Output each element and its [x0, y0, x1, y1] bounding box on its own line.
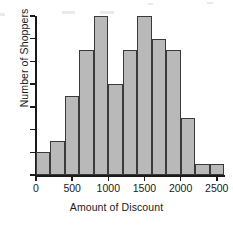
scan-artifact: [62, 11, 75, 14]
x-tick-label: 2500: [194, 183, 233, 194]
histogram-bar: [108, 84, 122, 175]
x-tick-mark: [180, 176, 182, 181]
y-tick-mark: [30, 174, 35, 176]
x-tick-mark: [108, 176, 110, 181]
y-tick-mark: [30, 38, 35, 40]
x-tick-mark: [216, 176, 218, 181]
histogram-figure: Number of Shoppers 02468101214 050010001…: [0, 0, 233, 225]
y-tick-mark: [30, 83, 35, 85]
histogram-bar: [166, 50, 180, 175]
x-tick-mark: [71, 176, 73, 181]
y-tick-mark: [30, 106, 35, 108]
x-axis-line: [35, 175, 225, 177]
histogram-bar: [65, 96, 79, 176]
histogram-bar: [79, 50, 93, 175]
histogram-bar: [195, 164, 209, 175]
y-tick-mark: [30, 152, 35, 154]
histogram-bar: [94, 16, 108, 175]
histogram-bar: [123, 50, 137, 175]
x-tick-mark: [144, 176, 146, 181]
y-tick-mark: [30, 129, 35, 131]
y-axis-title: Number of Shoppers: [18, 0, 30, 130]
scan-artifact: [148, 3, 153, 5]
scan-artifact: [0, 13, 5, 16]
y-tick-mark: [30, 15, 35, 17]
x-axis-title: Amount of Discount: [0, 201, 233, 213]
histogram-bar: [36, 152, 50, 175]
scan-artifact: [100, 11, 114, 14]
y-tick-mark: [30, 61, 35, 63]
plot-area: [36, 16, 224, 175]
histogram-bar: [210, 164, 224, 175]
x-tick-mark: [35, 176, 37, 181]
histogram-bar: [137, 16, 151, 175]
histogram-bar: [181, 118, 195, 175]
histogram-bar: [50, 141, 64, 175]
histogram-bar: [152, 39, 166, 175]
scan-artifact: [207, 2, 213, 4]
